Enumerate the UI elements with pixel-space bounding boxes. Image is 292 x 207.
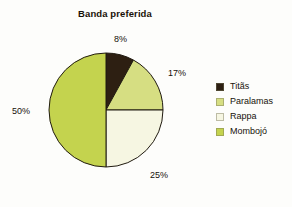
slice-percent-label-titas: 8%: [114, 34, 127, 44]
pie-plot-area: [46, 50, 166, 170]
legend-item-titas: Titãs: [216, 79, 292, 94]
legend-label-rappa: Rappa: [230, 111, 257, 122]
chart-title: Banda preferida: [0, 8, 230, 19]
legend-swatch-mombojo: [216, 128, 224, 136]
legend-swatch-paralamas: [216, 98, 224, 106]
slice-percent-label-mombojo: 50%: [12, 106, 30, 116]
pie-chart-figure: Banda preferida 8% 17% 25% 50% Titãs Par…: [0, 0, 292, 207]
slice-percent-label-paralamas: 17%: [168, 68, 186, 78]
pie-svg: [46, 50, 166, 170]
legend-item-rappa: Rappa: [216, 109, 292, 124]
legend-label-mombojo: Mombojó: [230, 126, 267, 137]
legend-item-mombojo: Mombojó: [216, 124, 292, 139]
legend-swatch-rappa: [216, 113, 224, 121]
legend-label-titas: Titãs: [230, 81, 249, 92]
pie-slice-Rappa: [106, 110, 163, 167]
legend-label-paralamas: Paralamas: [230, 96, 273, 107]
slice-percent-label-rappa: 25%: [150, 170, 168, 180]
legend-swatch-titas: [216, 83, 224, 91]
pie-slices: [49, 53, 163, 167]
legend-item-paralamas: Paralamas: [216, 94, 292, 109]
pie-slice-Mombojó: [49, 53, 106, 167]
chart-legend: Titãs Paralamas Rappa Mombojó: [216, 79, 292, 139]
